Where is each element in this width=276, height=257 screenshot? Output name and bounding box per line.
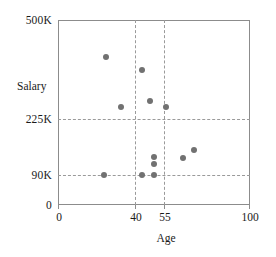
data-point [101,172,107,178]
data-point [180,155,186,161]
data-point [151,172,157,178]
data-point [139,67,145,73]
data-point [163,104,169,110]
scatter-chart-figure: 500K 225K 90K 0 Salary 0 40 55 100 Age [0,0,276,257]
data-point [151,161,157,167]
data-point [118,104,124,110]
data-point [147,98,153,104]
data-points-layer [0,0,276,257]
data-point [151,154,157,160]
data-point [139,172,145,178]
data-point [191,147,197,153]
data-point [103,54,109,60]
